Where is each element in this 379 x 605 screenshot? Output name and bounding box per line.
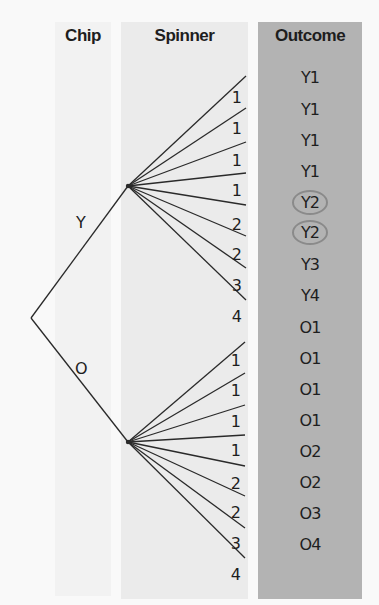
branch-root-y [31, 186, 128, 318]
spinner-label: 1 [227, 351, 241, 370]
spinner-label: 1 [227, 381, 241, 400]
spinner-label: 1 [227, 441, 241, 460]
chip-label-o: O [75, 359, 88, 378]
spinner-label: 1 [228, 151, 242, 170]
spinner-label: 4 [227, 565, 241, 584]
spinner-label: 4 [228, 307, 242, 326]
spinner-label: 1 [228, 88, 242, 107]
spinner-label: 1 [228, 181, 242, 200]
spinner-label: 2 [228, 215, 242, 234]
spinner-label: 2 [228, 245, 242, 264]
spinner-label: 3 [227, 534, 241, 553]
spinner-label: 3 [228, 276, 242, 295]
node-o [126, 440, 130, 444]
spinner-label: 2 [227, 503, 241, 522]
spinner-label: 2 [227, 474, 241, 493]
node-y [126, 184, 130, 188]
spinner-label: 1 [228, 119, 242, 138]
chip-label-y: Y [76, 213, 86, 232]
spinner-label: 1 [227, 412, 241, 431]
branch-root-o [31, 318, 128, 442]
tree-diagram-lines [0, 0, 379, 605]
